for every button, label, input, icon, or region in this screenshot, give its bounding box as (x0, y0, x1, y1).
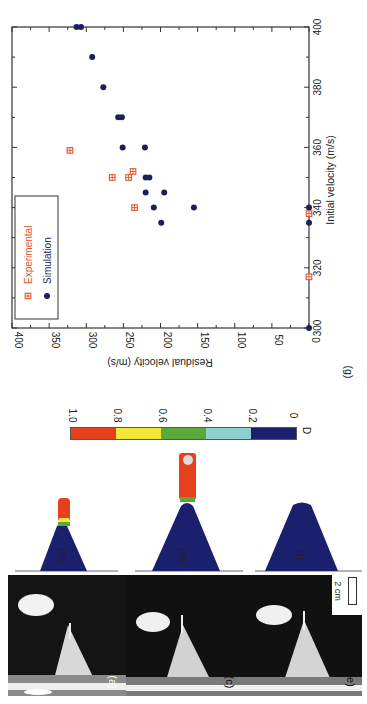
svg-text:150: 150 (199, 332, 210, 349)
colorbar-segment (116, 428, 161, 439)
simulation-f (255, 503, 362, 572)
colorbar-tick: 0.4 (202, 409, 213, 423)
svg-text:320: 320 (312, 259, 323, 276)
svg-text:380: 380 (312, 78, 323, 95)
panel-label-f: (f) (295, 550, 307, 560)
colorbar-tick: 0.6 (157, 409, 168, 423)
scale-bar (348, 577, 357, 605)
colorbar-tick: 0.2 (247, 409, 258, 423)
svg-text:250: 250 (124, 332, 135, 349)
colorbar-tick: 1.0 (67, 409, 78, 423)
svg-text:Experimental: Experimental (23, 226, 34, 284)
svg-text:300: 300 (312, 319, 323, 336)
svg-text:50: 50 (273, 334, 284, 346)
colorbar-segment (71, 428, 116, 439)
colorbar-title: D (301, 427, 312, 434)
svg-text:400: 400 (312, 18, 323, 35)
colorbar-tick: 0 (288, 413, 299, 419)
colorbar-tick: 0.8 (112, 409, 123, 423)
svg-text:360: 360 (312, 139, 323, 156)
svg-text:350: 350 (50, 332, 61, 349)
panel-label-e: e) (345, 677, 357, 687)
colorbar-segment (251, 428, 296, 439)
simulation-d (135, 453, 243, 571)
svg-text:340: 340 (312, 199, 323, 216)
panel-label-g: (g) (343, 366, 355, 379)
svg-text:0: 0 (310, 337, 321, 343)
panel-label-a: (a) (107, 675, 119, 688)
panel-label-b: (b) (57, 548, 69, 561)
colorbar-segment (206, 428, 251, 439)
scale-bar-label: 2 cm (333, 581, 343, 601)
damage-colorbar (70, 427, 297, 440)
svg-text:300: 300 (87, 332, 98, 349)
svg-text:Simulation: Simulation (42, 237, 53, 284)
svg-text:100: 100 (236, 332, 247, 349)
x-axis-title: Initial velocity (m/s) (324, 135, 336, 224)
svg-text:400: 400 (13, 332, 24, 349)
panel-label-d: (d) (177, 548, 189, 561)
colorbar-segment (161, 428, 206, 439)
y-axis-title: Residual velocity (m/s) (107, 357, 213, 369)
panel-label-c: (c) (224, 676, 236, 689)
svg-text:200: 200 (162, 332, 173, 349)
